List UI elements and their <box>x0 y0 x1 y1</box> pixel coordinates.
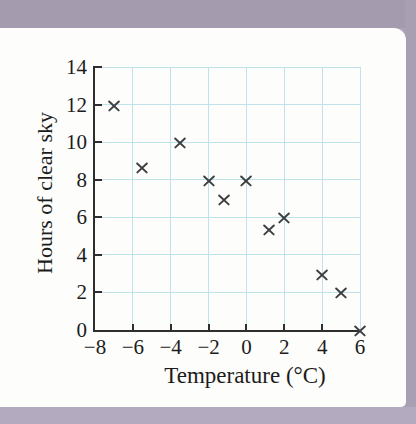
y-axis-tick <box>95 179 102 181</box>
page-border-top <box>0 0 416 28</box>
gridline-vertical <box>284 67 285 330</box>
page-border-right <box>405 0 416 424</box>
y-axis-tick <box>95 216 102 218</box>
x-axis-tick <box>245 324 247 331</box>
gridline-horizontal <box>95 67 360 68</box>
gridline-vertical <box>246 67 247 330</box>
data-point-marker <box>136 161 149 173</box>
y-axis-tick <box>95 141 102 143</box>
y-axis-tick-label: 8 <box>53 170 87 191</box>
gridline-vertical <box>360 67 361 330</box>
y-axis-tick-label: 6 <box>53 207 87 228</box>
y-axis-tick-label: 4 <box>53 245 87 266</box>
data-point-marker <box>240 174 253 186</box>
y-axis-tick-label: 14 <box>53 57 87 78</box>
gridline-horizontal <box>95 104 360 105</box>
y-axis-tick <box>95 104 102 106</box>
book-page: Hours of clear sky Temperature (°C) 0246… <box>0 28 406 407</box>
data-point-marker <box>174 136 187 148</box>
gridline-vertical <box>170 67 171 330</box>
data-point-marker <box>335 286 348 298</box>
data-point-marker <box>278 211 291 223</box>
gridline-vertical <box>132 67 133 330</box>
gridline-horizontal <box>95 142 360 143</box>
data-point-marker <box>354 324 367 336</box>
data-point-marker <box>202 174 215 186</box>
gridline-horizontal <box>95 179 360 180</box>
y-axis-tick <box>95 66 102 68</box>
x-axis-tick-label: 6 <box>338 337 382 358</box>
y-axis-tick-label: 2 <box>53 282 87 303</box>
gridline-horizontal <box>95 292 360 293</box>
x-axis-tick <box>283 324 285 331</box>
x-axis-tick <box>170 324 172 331</box>
y-axis-tick <box>95 291 102 293</box>
data-point-marker <box>263 223 276 235</box>
y-axis-tick-label: 12 <box>53 95 87 116</box>
chart: Hours of clear sky Temperature (°C) 0246… <box>0 28 406 407</box>
gridline-horizontal <box>95 217 360 218</box>
data-point-marker <box>316 268 329 280</box>
page-border-bottom <box>0 407 416 424</box>
gridline-horizontal <box>95 254 360 255</box>
y-axis-tick-label: 10 <box>53 132 87 153</box>
y-axis-tick <box>95 254 102 256</box>
x-axis-tick <box>321 324 323 331</box>
gridline-vertical <box>322 67 323 330</box>
x-axis-title: Temperature (°C) <box>125 363 365 389</box>
data-point-marker <box>107 99 120 111</box>
x-axis-tick <box>208 324 210 331</box>
data-point-marker <box>217 193 230 205</box>
x-axis-tick <box>132 324 134 331</box>
gridline-vertical <box>208 67 209 330</box>
